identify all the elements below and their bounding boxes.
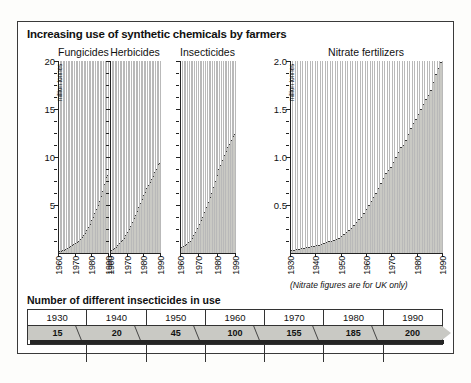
bar-fill — [88, 227, 89, 253]
bar — [440, 61, 442, 253]
page-title: Increasing use of synthetic chemicals by… — [27, 28, 286, 40]
y-tick-mark — [106, 145, 109, 146]
bar-fill — [413, 123, 414, 253]
y-tick-mark — [54, 73, 57, 74]
table-column-divider — [87, 341, 146, 362]
bar-fill — [85, 233, 86, 253]
y-tick-mark — [176, 193, 179, 194]
chart-panel-insecticides: Insecticides1960197019801990 — [178, 46, 252, 278]
plot-inner — [111, 61, 161, 253]
y-tick-mark — [54, 145, 57, 146]
chevron-band: 152045100155185200 — [28, 326, 442, 340]
table-column-dividers — [28, 341, 442, 362]
bar-fill — [321, 244, 322, 253]
bar-fill — [400, 147, 401, 253]
x-tick-label: 1940 — [311, 256, 321, 275]
bar-fill — [398, 152, 399, 253]
table-column-divider — [265, 341, 324, 362]
y-tick-mark — [176, 217, 179, 218]
x-tick-label: 1970 — [71, 256, 81, 275]
chart-panel-herbicides: Herbicides1960197019801990 — [108, 46, 178, 278]
bar-fill — [227, 147, 228, 253]
bar-fill — [333, 240, 334, 253]
x-tick-label: 1980 — [413, 256, 423, 275]
bar-fill — [93, 217, 94, 253]
bar-fill — [153, 176, 154, 253]
bar-fill — [358, 219, 359, 253]
y-tick-mark — [106, 109, 110, 110]
y-tick-mark — [286, 205, 290, 206]
bar-fill — [99, 201, 100, 253]
bar-fill — [134, 218, 135, 253]
bar-fill — [217, 175, 218, 253]
bar-fill — [234, 134, 235, 253]
bar-fill — [113, 249, 114, 253]
bar-fill — [156, 169, 157, 253]
y-tick-mark — [286, 121, 289, 122]
y-tick-mark — [286, 61, 290, 62]
bar-fill — [154, 172, 155, 253]
x-tick-label: 1970 — [194, 256, 204, 275]
bar-fill — [331, 241, 332, 253]
table-value-cell: 15 — [28, 326, 87, 340]
bar — [159, 61, 161, 253]
bar-fill — [137, 211, 138, 253]
y-tick-mark — [176, 181, 179, 182]
bar-fill — [62, 250, 63, 253]
y-tick-mark — [106, 61, 110, 62]
y-tick-mark — [176, 205, 180, 206]
bar-fill — [435, 74, 436, 253]
bar-fill — [233, 136, 234, 253]
bar-fill — [73, 244, 74, 253]
bar-fill — [193, 235, 194, 253]
bar-fill — [368, 205, 369, 253]
bar-fill — [390, 167, 391, 253]
bar-fill — [393, 162, 394, 253]
y-tick-mark — [176, 157, 180, 158]
bar-fill — [140, 203, 141, 253]
bar-fill — [64, 250, 65, 253]
plot-area — [290, 61, 443, 254]
plot-area — [180, 61, 236, 254]
bar-fill — [366, 209, 367, 253]
bar-fill — [308, 247, 309, 253]
chart-panel-fungicides: Fungicides5101520million tonnes196019701… — [36, 46, 108, 278]
y-tick-mark — [286, 73, 289, 74]
y-tick-mark — [286, 169, 289, 170]
bar-fill — [197, 228, 198, 253]
bar-fill — [291, 250, 292, 253]
table-value-cell: 200 — [383, 326, 442, 340]
bar-fill — [408, 134, 409, 253]
bar-fill — [298, 249, 299, 253]
y-tick-mark — [54, 121, 57, 122]
y-tick-mark — [106, 133, 109, 134]
bar-fill — [428, 95, 429, 253]
bar-fill — [82, 237, 83, 253]
table-title: Number of different insecticides in use — [27, 294, 221, 306]
table-header-cell: 1930 — [28, 310, 87, 325]
bar-fill — [69, 247, 70, 253]
y-tick-mark — [54, 217, 57, 218]
bar-fill — [361, 217, 362, 253]
x-tick-label: 1970 — [387, 256, 397, 275]
bar-fill — [135, 215, 136, 253]
table-value-cell: 20 — [87, 326, 146, 340]
y-tick-mark — [176, 85, 179, 86]
table-column-divider — [384, 341, 442, 362]
x-tick-label: 1950 — [337, 256, 347, 275]
plot-inner — [181, 61, 236, 253]
y-tick-mark — [54, 97, 57, 98]
bar-fill — [371, 201, 372, 253]
y-tick-mark — [176, 145, 179, 146]
table-value-row: 152045100155185200 — [28, 325, 442, 346]
bar-fill — [373, 197, 374, 253]
bar-fill — [119, 243, 120, 253]
table-column-divider — [206, 341, 265, 362]
bar-fill — [375, 193, 376, 253]
bar-fill — [127, 232, 128, 253]
bar-fill — [206, 207, 207, 253]
table-column-divider — [324, 341, 383, 362]
table-header-cell: 1940 — [87, 310, 146, 325]
infographic-root: Increasing use of synthetic chemicals by… — [0, 0, 471, 383]
bar-series — [111, 61, 161, 253]
